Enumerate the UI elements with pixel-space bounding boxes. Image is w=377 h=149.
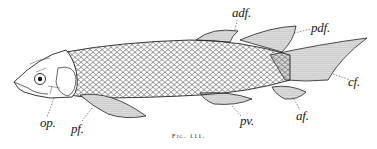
- figure-caption: Fig. 111.: [0, 132, 377, 140]
- label-operculum: op.: [40, 115, 56, 131]
- label-caudal-fin: cf.: [348, 74, 360, 90]
- fish-body: [66, 40, 290, 98]
- anal-fin: [272, 86, 306, 99]
- label-anal-fin: af.: [296, 108, 309, 124]
- label-pelvic-fin: pv.: [240, 113, 254, 129]
- label-anterior-dorsal-fin: adf.: [232, 5, 251, 21]
- label-posterior-dorsal-fin: pdf.: [311, 20, 330, 36]
- fish-illustration: op. pf. pv. af. cf. pdf. adf. Fig. 111.: [0, 0, 377, 149]
